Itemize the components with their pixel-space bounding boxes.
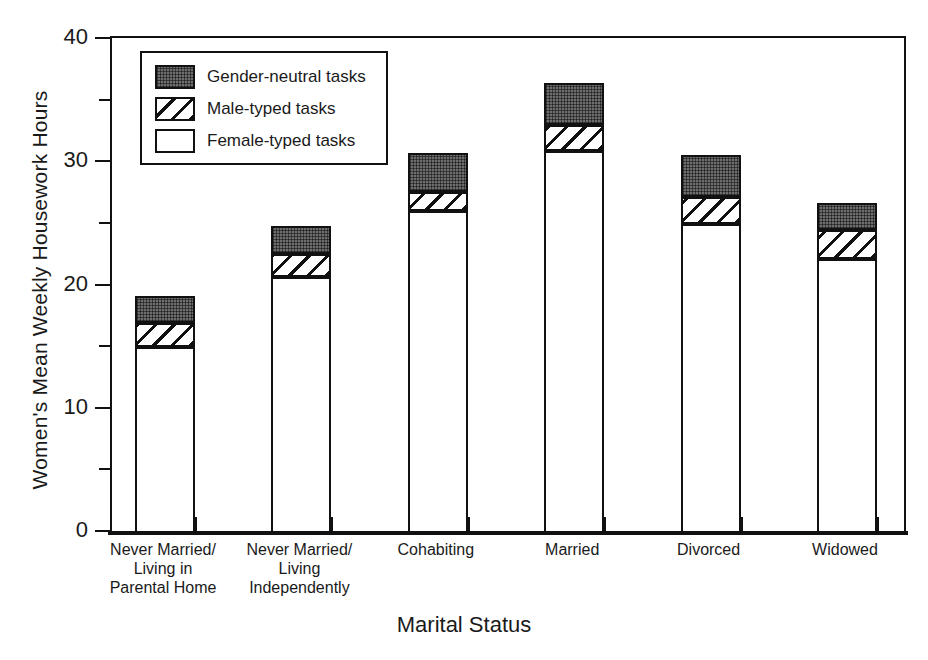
x-category-tick [877, 517, 879, 531]
legend-swatch-icon [155, 97, 195, 121]
x-category-tick [408, 517, 410, 531]
bar-segment-female [544, 151, 604, 533]
legend-label: Male-typed tasks [207, 99, 336, 119]
legend-label: Female-typed tasks [207, 131, 355, 151]
bar-segment-male [817, 230, 877, 260]
y-tick-label: 0 [28, 519, 88, 541]
bar-segment-neutral [135, 296, 195, 323]
y-tick-minor [99, 222, 110, 224]
x-category-tick [135, 517, 137, 531]
y-tick-minor [99, 468, 110, 470]
x-category-label: Never Married/Living inParental Home [93, 540, 233, 597]
y-tick-major [95, 284, 110, 286]
x-category-label: Widowed [775, 540, 915, 559]
housework-hours-bar-chart: Women's Mean Weekly Housework Hours 0102… [0, 0, 928, 660]
x-category-tick [195, 517, 197, 531]
x-category-label-line: Divorced [639, 540, 779, 559]
x-category-tick [741, 517, 743, 531]
stacked-bar [135, 296, 195, 533]
legend-swatch-icon [155, 65, 195, 89]
legend-swatch-icon [155, 129, 195, 153]
stacked-bar [544, 83, 604, 533]
y-tick-label: 30 [28, 149, 88, 171]
y-tick-minor [99, 99, 110, 101]
x-category-label-line: Living [229, 559, 369, 578]
x-category-label-line: Never Married/ [229, 540, 369, 559]
x-category-label: Never Married/LivingIndependently [229, 540, 369, 597]
bar-segment-neutral [817, 203, 877, 230]
bar-segment-male [408, 192, 468, 212]
x-category-label: Cohabiting [366, 540, 506, 559]
x-category-label-line: Living in [93, 559, 233, 578]
x-category-label-line: Independently [229, 578, 369, 597]
stacked-bar [408, 153, 468, 533]
x-category-label-line: Never Married/ [93, 540, 233, 559]
x-category-tick [604, 517, 606, 531]
x-category-label-line: Cohabiting [366, 540, 506, 559]
x-category-tick [544, 517, 546, 531]
y-tick-label: 10 [28, 396, 88, 418]
stacked-bar [681, 155, 741, 533]
bar-segment-neutral [681, 155, 741, 197]
legend-label: Gender-neutral tasks [207, 67, 366, 87]
x-category-tick [681, 517, 683, 531]
x-axis-baseline [108, 531, 908, 535]
bar-segment-male [135, 323, 195, 346]
bar-segment-female [135, 347, 195, 533]
legend: Gender-neutral tasksMale-typed tasksFema… [140, 51, 388, 165]
y-tick-major [95, 160, 110, 162]
bar-segment-male [544, 125, 604, 151]
y-tick-label: 20 [28, 273, 88, 295]
y-tick-major [95, 407, 110, 409]
bar-segment-neutral [544, 83, 604, 125]
bar-segment-female [681, 224, 741, 533]
bar-segment-male [681, 197, 741, 224]
x-category-label: Divorced [639, 540, 779, 559]
bar-segment-neutral [408, 153, 468, 191]
y-tick-label: 40 [28, 26, 88, 48]
bar-segment-female [408, 211, 468, 533]
y-tick-minor [99, 345, 110, 347]
x-category-tick [271, 517, 273, 531]
x-category-label-line: Widowed [775, 540, 915, 559]
bar-segment-female [817, 259, 877, 533]
x-axis-title: Marital Status [0, 612, 928, 638]
x-category-tick [331, 517, 333, 531]
x-category-label-line: Parental Home [93, 578, 233, 597]
stacked-bar [271, 226, 331, 533]
bar-segment-male [271, 254, 331, 276]
x-category-label-line: Married [502, 540, 642, 559]
y-tick-major [95, 37, 110, 39]
x-category-tick [817, 517, 819, 531]
bar-segment-neutral [271, 226, 331, 254]
bar-segment-female [271, 277, 331, 533]
stacked-bar [817, 203, 877, 533]
x-category-label: Married [502, 540, 642, 559]
x-category-tick [468, 517, 470, 531]
